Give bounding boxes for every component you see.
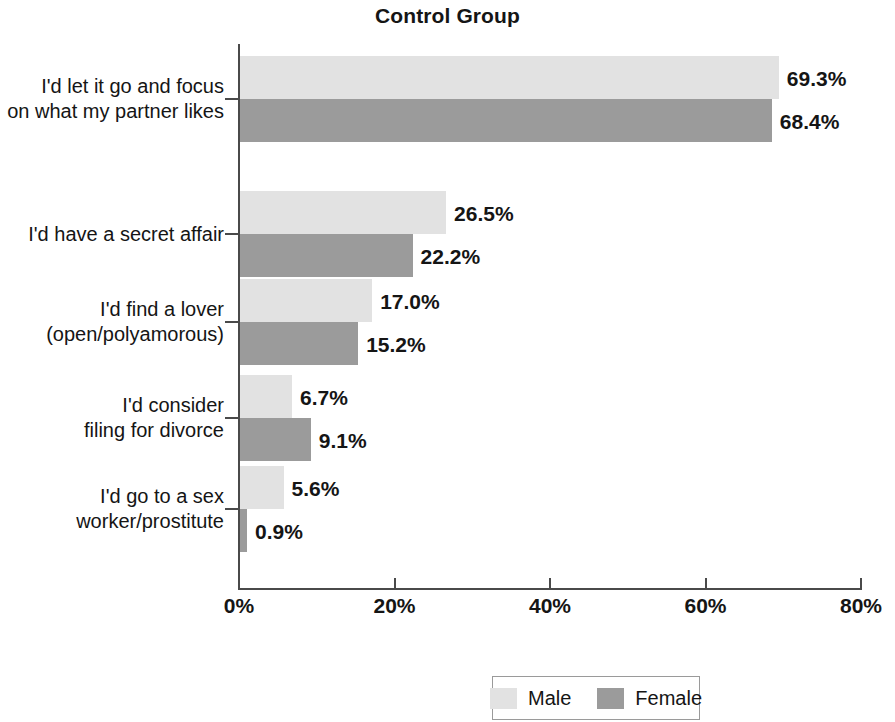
bar-female — [240, 509, 247, 552]
category-label: I'd let it go and focus on what my partn… — [7, 74, 224, 124]
bar-male — [240, 375, 292, 418]
bar-value-label: 9.1% — [319, 430, 367, 451]
x-axis-tick-label: 0% — [224, 594, 254, 618]
x-axis-tick-label: 60% — [684, 594, 726, 618]
x-axis-tick-label: 80% — [840, 594, 882, 618]
x-axis-tick-label: 20% — [373, 594, 415, 618]
bar-value-label: 68.4% — [780, 111, 840, 132]
bar-male — [240, 56, 779, 99]
bar-female — [240, 322, 358, 365]
legend-swatch-male-icon — [490, 688, 517, 709]
y-axis-tick — [225, 321, 238, 323]
category-label: I'd go to a sex worker/prostitute — [76, 484, 224, 534]
bar-female — [240, 99, 772, 142]
legend-swatch-female-icon — [597, 688, 624, 709]
y-axis-tick — [225, 233, 238, 235]
y-axis-tick — [225, 508, 238, 510]
bar-male — [240, 279, 372, 322]
bar-female — [240, 418, 311, 461]
bar-value-label: 69.3% — [787, 68, 847, 89]
x-axis-tick-label: 40% — [529, 594, 571, 618]
bar-chart: Control Group I'd let it go and focus on… — [0, 0, 895, 722]
category-label: I'd have a secret affair — [28, 222, 224, 247]
bar-male — [240, 466, 284, 509]
x-axis-tick — [394, 578, 396, 590]
category-label: I'd consider filing for divorce — [84, 393, 224, 443]
bar-value-label: 22.2% — [421, 246, 481, 267]
bar-value-label: 5.6% — [292, 478, 340, 499]
y-axis-tick — [225, 98, 238, 100]
bar-value-label: 26.5% — [454, 203, 514, 224]
x-axis-tick — [238, 578, 240, 590]
legend-item-male[interactable]: Male — [490, 688, 571, 709]
bar-male — [240, 191, 446, 234]
legend-item-female[interactable]: Female — [597, 688, 702, 709]
bar-value-label: 17.0% — [380, 291, 440, 312]
y-axis-tick — [225, 417, 238, 419]
category-label: I'd find a lover (open/polyamorous) — [46, 297, 224, 347]
legend-label-male: Male — [528, 688, 571, 708]
bar-value-label: 0.9% — [255, 521, 303, 542]
legend-label-female: Female — [635, 688, 702, 708]
legend: Male Female — [492, 676, 700, 720]
x-axis-tick — [549, 578, 551, 590]
y-axis-category-labels: I'd let it go and focus on what my partn… — [0, 44, 224, 590]
bar-value-label: 15.2% — [366, 334, 426, 355]
x-axis-tick — [860, 578, 862, 590]
x-axis-tick — [705, 578, 707, 590]
plot-area: 0%20%40%60%80% 69.3%68.4%26.5%22.2%17.0%… — [238, 44, 860, 590]
bar-female — [240, 234, 413, 277]
chart-title: Control Group — [0, 4, 895, 28]
bar-value-label: 6.7% — [300, 387, 348, 408]
